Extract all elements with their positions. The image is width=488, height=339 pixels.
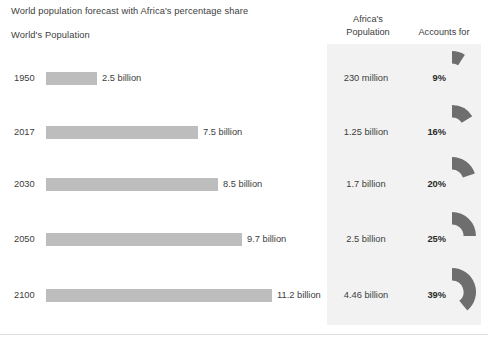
- world-population-column-title: World's Population: [11, 30, 90, 40]
- world-population-bar: [46, 126, 198, 139]
- bottom-divider: [0, 334, 488, 335]
- chart-row: 20509.7 billion2.5 billion25%: [0, 230, 488, 252]
- row-year-label: 1950: [14, 73, 44, 83]
- africa-population-value: 2.5 billion: [330, 234, 402, 244]
- africa-population-value: 1.25 billion: [330, 127, 402, 137]
- world-population-value: 2.5 billion: [102, 73, 141, 83]
- africa-population-column-title: Africa's Population: [333, 13, 403, 38]
- africa-percentage-wedge-icon: [424, 47, 480, 103]
- africa-percentage-wedge-icon: [424, 208, 480, 264]
- africa-percentage-wedge-icon: [424, 101, 480, 157]
- africa-percentage-wedge-icon: [424, 264, 480, 320]
- population-forecast-chart: World population forecast with Africa's …: [0, 0, 488, 339]
- world-population-value: 11.2 billion: [277, 290, 321, 300]
- africa-population-value: 4.46 billion: [330, 290, 402, 300]
- world-population-bar: [46, 289, 272, 302]
- africa-title-line1: Africa's: [353, 14, 383, 24]
- row-year-label: 2017: [14, 127, 44, 137]
- africa-percentage-wedge-icon: [424, 153, 480, 209]
- africa-population-value: 230 million: [330, 73, 402, 83]
- chart-row: 19502.5 billion230 million9%: [0, 69, 488, 91]
- world-population-value: 9.7 billion: [247, 234, 286, 244]
- row-year-label: 2030: [14, 179, 44, 189]
- chart-row: 210011.2 billion4.46 billion39%: [0, 286, 488, 308]
- africa-population-value: 1.7 billion: [330, 179, 402, 189]
- row-year-label: 2050: [14, 234, 44, 244]
- chart-row: 20177.5 billion1.25 billion16%: [0, 123, 488, 145]
- world-population-bar: [46, 72, 97, 85]
- world-population-value: 7.5 billion: [203, 127, 242, 137]
- chart-row: 20308.5 billion1.7 billion20%: [0, 175, 488, 197]
- world-population-bar: [46, 178, 218, 191]
- page-title: World population forecast with Africa's …: [11, 6, 248, 16]
- world-population-value: 8.5 billion: [223, 179, 262, 189]
- world-population-bar: [46, 233, 242, 246]
- row-year-label: 2100: [14, 290, 44, 300]
- accounts-for-column-title: Accounts for: [406, 26, 482, 39]
- africa-title-line2: Population: [346, 27, 389, 37]
